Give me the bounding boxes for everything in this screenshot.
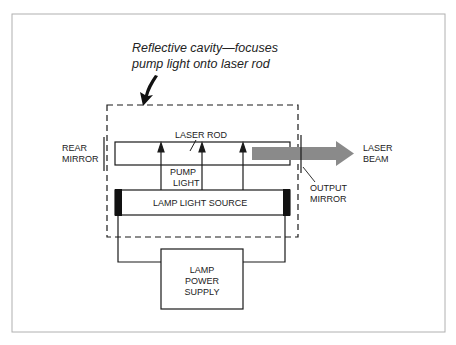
- pump-light-label-2: LIGHT: [173, 178, 200, 188]
- power-supply-label-2: POWER: [185, 276, 220, 286]
- laser-beam-arrowhead-icon: [336, 141, 354, 166]
- output-mirror-leader: [303, 167, 315, 182]
- rear-mirror-label-2: MIRROR: [62, 154, 99, 164]
- caption-line-1: Reflective cavity—focuses: [132, 41, 278, 55]
- pump-light-label-1: PUMP: [170, 167, 196, 177]
- lamp-light-source-label: LAMP LIGHT SOURCE: [153, 198, 247, 208]
- power-supply-label-3: SUPPLY: [185, 287, 220, 297]
- lamp-end-cap-left: [115, 189, 122, 216]
- laser-rod-label: LASER ROD: [175, 130, 228, 140]
- caption-line-2: pump light onto laser rod: [131, 57, 271, 71]
- wire-left: [118, 216, 161, 262]
- laser-beam-label-2: BEAM: [363, 154, 389, 164]
- laser-beam: [252, 147, 338, 160]
- pointer-arrow-icon: [140, 75, 158, 106]
- output-mirror-label-1: OUTPUT: [310, 183, 348, 193]
- power-supply-label-1: LAMP: [190, 265, 215, 275]
- lamp-end-cap-right: [283, 189, 290, 216]
- rear-mirror-label-1: REAR: [62, 143, 88, 153]
- wire-right: [243, 216, 285, 262]
- laser-diagram: Reflective cavity—focuses pump light ont…: [0, 0, 456, 345]
- output-mirror-label-2: MIRROR: [310, 194, 347, 204]
- laser-beam-label-1: LASER: [363, 143, 393, 153]
